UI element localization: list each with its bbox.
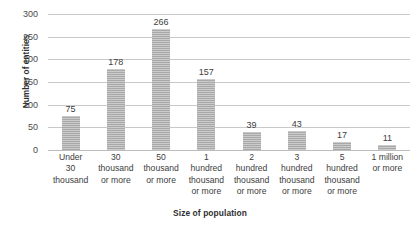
- bar-value-label: 75: [66, 104, 76, 114]
- x-axis-category-label: 30thousandor more: [93, 152, 138, 186]
- y-axis-tick-labels: 050100150200250300: [0, 14, 44, 150]
- x-axis-category-label-line: 3: [274, 152, 319, 163]
- x-axis-category-label-line: hundred: [229, 163, 274, 174]
- bar[interactable]: [288, 131, 306, 150]
- bar-value-label: 266: [154, 17, 169, 27]
- x-axis-category-label-line: hundred: [320, 163, 365, 174]
- y-axis-tick-label: 100: [23, 100, 38, 110]
- bar-slot: 39: [229, 14, 274, 150]
- x-axis-category-label-line: 5: [320, 152, 365, 163]
- y-axis-tick-label: 250: [23, 32, 38, 42]
- x-axis-category-label-line: or more: [365, 163, 410, 174]
- x-axis-category-label-line: or more: [139, 175, 184, 186]
- x-axis-category-label-line: 30: [93, 152, 138, 163]
- bar-slot: 266: [139, 14, 184, 150]
- x-axis-category-label-line: thousand: [320, 175, 365, 186]
- x-axis-category-label-line: or more: [274, 186, 319, 197]
- x-axis-category-label: 5hundredthousandor more: [320, 152, 365, 198]
- x-axis-category-label-line: thousand: [274, 175, 319, 186]
- x-axis-category-label-line: thousand: [93, 163, 138, 174]
- bar-value-label: 39: [247, 120, 257, 130]
- bar[interactable]: [152, 29, 170, 150]
- x-axis-category-label-line: or more: [320, 186, 365, 197]
- x-axis-category-label-line: thousand: [48, 175, 93, 186]
- bar-value-label: 17: [337, 130, 347, 140]
- bar-slot: 11: [365, 14, 410, 150]
- x-axis-category-label: 1 millionor more: [365, 152, 410, 175]
- x-axis-category-label: 1hundredthousandor more: [184, 152, 229, 198]
- x-axis-category-label-line: or more: [229, 186, 274, 197]
- bar-slot: 17: [320, 14, 365, 150]
- x-axis-category-label-line: 2: [229, 152, 274, 163]
- bar[interactable]: [333, 142, 351, 150]
- x-axis-category-label: 3hundredthousandor more: [274, 152, 319, 198]
- bar-value-label: 178: [108, 57, 123, 67]
- x-axis-category-label-line: Under: [48, 152, 93, 163]
- bar[interactable]: [62, 116, 80, 150]
- gridline: [48, 150, 410, 151]
- x-axis-category-label-line: thousand: [184, 175, 229, 186]
- x-axis-category-label-line: thousand: [139, 163, 184, 174]
- bar-slot: 75: [48, 14, 93, 150]
- x-axis-category-labels: Under30thousand30thousandor more50thousa…: [48, 152, 410, 204]
- y-axis-tick-label: 150: [23, 77, 38, 87]
- bar-value-label: 43: [292, 119, 302, 129]
- x-axis-category-label-line: 1: [184, 152, 229, 163]
- x-axis-category-label-line: 50: [139, 152, 184, 163]
- x-axis-category-label-line: thousand: [229, 175, 274, 186]
- y-axis-tick-label: 0: [33, 145, 38, 155]
- bar-value-label: 157: [199, 67, 214, 77]
- x-axis-category-label-line: 1 million: [365, 152, 410, 163]
- x-axis-category-label-line: hundred: [184, 163, 229, 174]
- x-axis-category-label: Under30thousand: [48, 152, 93, 186]
- bar-slot: 43: [274, 14, 319, 150]
- bar-series: 7517826615739431711: [48, 14, 410, 150]
- bar-value-label: 11: [383, 133, 392, 143]
- bar-slot: 178: [93, 14, 138, 150]
- x-axis-title: Size of population: [0, 208, 420, 218]
- x-axis-category-label: 50thousandor more: [139, 152, 184, 186]
- y-axis-tick-label: 200: [23, 54, 38, 64]
- plot-area: 7517826615739431711: [48, 14, 410, 150]
- x-axis-category-label: 2hundredthousandor more: [229, 152, 274, 198]
- bar[interactable]: [107, 69, 125, 150]
- x-axis-category-label-line: 30: [48, 163, 93, 174]
- y-axis-tick-label: 50: [28, 122, 38, 132]
- x-axis-category-label-line: or more: [93, 175, 138, 186]
- bar-chart: Number of entities 050100150200250300 75…: [0, 0, 420, 229]
- bar[interactable]: [378, 145, 396, 150]
- x-axis-category-label-line: hundred: [274, 163, 319, 174]
- bar[interactable]: [197, 79, 215, 150]
- bar[interactable]: [243, 132, 261, 150]
- x-axis-category-label-line: or more: [184, 186, 229, 197]
- y-axis-tick-label: 300: [23, 9, 38, 19]
- bar-slot: 157: [184, 14, 229, 150]
